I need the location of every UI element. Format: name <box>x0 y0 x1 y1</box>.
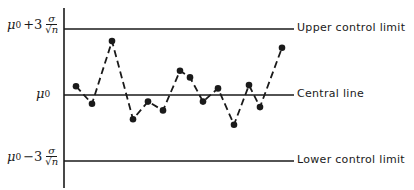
subscript-zero: 0 <box>15 152 21 162</box>
plus-three: +3 <box>23 17 42 32</box>
upper-control-limit-label: Upper control limit <box>297 21 405 34</box>
data-point <box>130 116 137 123</box>
subscript-zero: 0 <box>15 20 21 30</box>
data-point <box>231 121 238 128</box>
sqrt-n-symbol: √n <box>45 25 58 35</box>
mu-symbol: μ <box>7 17 15 32</box>
subscript-zero: 0 <box>44 89 50 99</box>
sigma-over-sqrt-n: σ √n <box>45 146 58 167</box>
sample-mean-points <box>73 38 286 128</box>
sqrt-n-symbol: √n <box>45 157 58 167</box>
data-point <box>257 104 264 111</box>
data-point <box>160 107 167 114</box>
lcl-axis-label: μ0 −3 σ √n <box>7 146 58 167</box>
data-point <box>187 74 194 81</box>
data-point <box>73 83 80 90</box>
data-point <box>215 85 222 92</box>
central-axis-label: μ0 <box>36 86 50 101</box>
lower-control-limit-label: Lower control limit <box>297 153 405 166</box>
data-point <box>246 82 253 89</box>
central-line-label: Central line <box>297 87 364 100</box>
data-point <box>89 101 96 108</box>
sigma-over-sqrt-n: σ √n <box>45 14 58 35</box>
mu-symbol: μ <box>7 149 15 164</box>
mu-symbol: μ <box>36 86 44 101</box>
data-point <box>109 38 116 45</box>
data-point <box>145 98 152 105</box>
data-point <box>279 44 286 51</box>
minus-three: −3 <box>23 149 42 164</box>
data-point <box>200 98 207 105</box>
ucl-axis-label: μ0 +3 σ √n <box>7 14 58 35</box>
data-point <box>177 68 184 75</box>
